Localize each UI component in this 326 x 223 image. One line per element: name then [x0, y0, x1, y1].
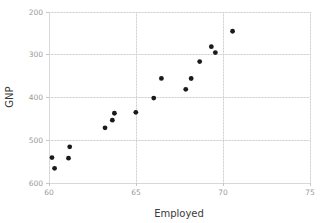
data-point [189, 76, 194, 81]
data-point [197, 59, 202, 64]
y-axis-title: GNP [4, 86, 15, 107]
y-tick-label: 300 [29, 50, 44, 59]
x-axis-title: Employed [154, 208, 204, 219]
data-point [50, 155, 55, 160]
data-point [67, 144, 72, 149]
data-point [159, 76, 164, 81]
data-point [183, 87, 188, 92]
data-point [52, 166, 57, 171]
data-point [103, 125, 108, 130]
x-tick-label: 70 [218, 188, 228, 197]
data-point [209, 44, 214, 49]
plot-svg: 600500400300200 60657075 Employed GNP [0, 0, 326, 223]
data-point [133, 110, 138, 115]
y-tick-label: 500 [29, 136, 44, 145]
scatter-chart: 600500400300200 60657075 Employed GNP [0, 0, 326, 223]
y-tick-label: 200 [29, 8, 44, 17]
y-tick-label: 600 [29, 179, 44, 188]
data-point [66, 156, 71, 161]
data-point [213, 50, 218, 55]
x-tick-label: 75 [305, 188, 315, 197]
data-point [151, 96, 156, 101]
x-tick-label: 60 [44, 188, 54, 197]
data-point [230, 29, 235, 34]
y-tick-label: 400 [29, 93, 44, 102]
data-point [112, 111, 117, 116]
x-tick-label: 65 [131, 188, 141, 197]
data-point [110, 118, 115, 123]
